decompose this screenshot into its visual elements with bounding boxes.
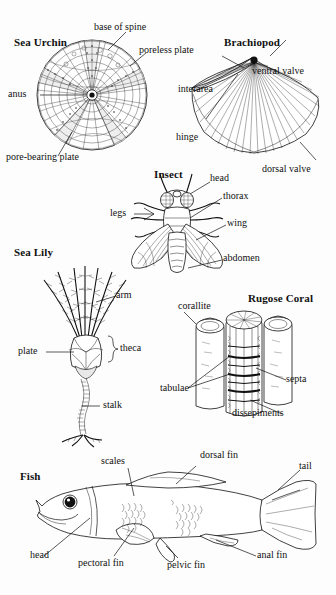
label-plate: plate xyxy=(18,346,37,356)
sea-lily-drawing xyxy=(8,246,168,436)
label-interarea: interarea xyxy=(178,84,213,94)
label-base-of-spine: base of spine xyxy=(94,22,146,32)
figure-title-sea-lily: Sea Lily xyxy=(14,246,53,258)
label-wing: wing xyxy=(227,218,247,228)
label-dorsal-fin: dorsal fin xyxy=(200,450,238,460)
figure-title-rugose-coral: Rugose Coral xyxy=(248,292,313,304)
figure-brachiopod: Brachiopod ventral valve interarea hinge… xyxy=(176,24,336,174)
label-scales: scales xyxy=(101,456,125,466)
figure-sea-lily: Sea Lily arm plate theca stalk xyxy=(8,246,168,436)
figure-title-insect: Insect xyxy=(154,168,183,180)
diagram-page: Sea Urchin base of spine poreless plate … xyxy=(0,0,336,595)
label-corallite: corallite xyxy=(178,301,211,311)
label-stalk: stalk xyxy=(103,400,122,410)
label-head: head xyxy=(30,550,49,560)
label-abdomen: abdomen xyxy=(223,253,260,263)
figure-rugose-coral: Rugose Coral corallite tabulae septa dis… xyxy=(160,290,336,425)
label-legs: legs xyxy=(110,208,126,218)
leader-legs-a xyxy=(144,208,154,214)
label-dissepiments: dissepiments xyxy=(232,408,284,418)
label-septa: septa xyxy=(286,374,307,384)
fish-drawing xyxy=(0,440,336,595)
label-anus: anus xyxy=(8,89,26,99)
leader-head xyxy=(190,182,210,194)
label-hinge: hinge xyxy=(176,132,198,142)
label-ventral-valve: ventral valve xyxy=(252,66,304,76)
label-tabulae: tabulae xyxy=(160,383,189,393)
label-anal-fin: anal fin xyxy=(257,550,287,560)
leader-corallite xyxy=(184,312,196,324)
figure-sea-urchin: Sea Urchin base of spine poreless plate … xyxy=(0,20,180,170)
leader-thorax xyxy=(190,198,222,218)
label-pore-bearing-plate: pore-bearing plate xyxy=(6,152,79,162)
label-pectoral-fin: pectoral fin xyxy=(78,558,124,568)
label-arm: arm xyxy=(116,290,132,300)
label-head: head xyxy=(210,173,229,183)
label-pelvic-fin: pelvic fin xyxy=(167,560,205,570)
figure-title-brachiopod: Brachiopod xyxy=(224,36,280,48)
figure-fish: Fish scales dorsal fin tail head pectora… xyxy=(0,440,336,595)
leader-interarea xyxy=(222,56,244,68)
label-theca: theca xyxy=(120,343,141,353)
label-thorax: thorax xyxy=(223,191,249,201)
figure-title-fish: Fish xyxy=(20,470,41,482)
figure-title-sea-urchin: Sea Urchin xyxy=(14,36,67,48)
theca-brace xyxy=(108,336,118,362)
leader-dorsal-valve xyxy=(300,142,316,160)
label-tail: tail xyxy=(299,461,312,471)
